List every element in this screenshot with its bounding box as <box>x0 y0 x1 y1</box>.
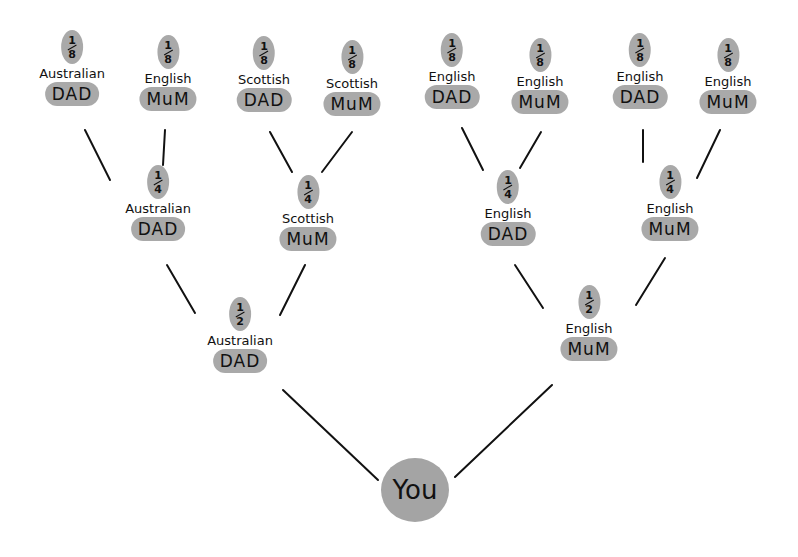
role-label: DAD <box>481 222 536 246</box>
fraction-denominator: 4 <box>504 189 512 200</box>
nationality-label: English <box>139 71 196 86</box>
fraction-numerator: 1 <box>724 43 732 54</box>
nationality-label: English <box>560 321 617 336</box>
role-label: DAD <box>131 217 186 241</box>
fraction-badge: 18 <box>341 40 363 74</box>
fraction-badge: 18 <box>717 38 739 72</box>
ancestor-node-g3-6: 18 English MuM <box>511 38 568 114</box>
role-label: DAD <box>45 82 100 106</box>
fraction-denominator: 8 <box>448 52 456 63</box>
role-label: DAD <box>613 85 668 109</box>
role-label: MuM <box>641 217 698 241</box>
nationality-label: English <box>511 74 568 89</box>
parent-node-mum: 12 English MuM <box>560 285 617 361</box>
ancestor-node-g3-5: 18 English DAD <box>425 33 480 109</box>
nationality-label: Scottish <box>237 72 292 87</box>
fraction-badge: 18 <box>253 36 275 70</box>
ancestor-node-g3-7: 18 English DAD <box>613 33 668 109</box>
fraction-numerator: 1 <box>154 170 162 181</box>
fraction-denominator: 8 <box>536 57 544 68</box>
nationality-label: English <box>699 74 756 89</box>
nationality-label: English <box>425 69 480 84</box>
fraction-numerator: 1 <box>666 170 674 181</box>
fraction-badge: 18 <box>441 33 463 67</box>
role-label: MuM <box>279 227 336 251</box>
fraction-numerator: 1 <box>68 35 76 46</box>
fraction-badge: 18 <box>529 38 551 72</box>
fraction-denominator: 8 <box>636 52 644 63</box>
fraction-numerator: 1 <box>164 40 172 51</box>
role-label: MuM <box>511 90 568 114</box>
fraction-numerator: 1 <box>348 45 356 56</box>
fraction-numerator: 1 <box>536 43 544 54</box>
you-node: You <box>381 458 449 522</box>
fraction-numerator: 1 <box>236 302 244 313</box>
fraction-denominator: 8 <box>68 49 76 60</box>
fraction-denominator: 4 <box>666 184 674 195</box>
fraction-denominator: 2 <box>585 304 593 315</box>
role-label: MuM <box>323 92 380 116</box>
ancestor-node-g3-4: 18 Scottish MuM <box>323 40 380 116</box>
fraction-numerator: 1 <box>304 180 312 191</box>
nationality-label: English <box>481 206 536 221</box>
fraction-denominator: 8 <box>724 57 732 68</box>
fraction-badge: 14 <box>659 165 681 199</box>
fraction-numerator: 1 <box>585 290 593 301</box>
fraction-badge: 18 <box>157 35 179 69</box>
fraction-badge: 14 <box>297 175 319 209</box>
fraction-badge: 12 <box>578 285 600 319</box>
nationality-label: Scottish <box>323 76 380 91</box>
fraction-badge: 18 <box>61 30 83 64</box>
role-label: DAD <box>425 85 480 109</box>
fraction-badge: 18 <box>629 33 651 67</box>
ancestor-node-g2-3: 14 English DAD <box>481 170 536 246</box>
nationality-label: Australian <box>39 66 105 81</box>
ancestor-node-g3-1: 18 Australian DAD <box>39 30 105 106</box>
fraction-denominator: 4 <box>304 194 312 205</box>
nationality-label: English <box>641 201 698 216</box>
ancestor-node-g2-1: 14 Australian DAD <box>125 165 191 241</box>
nationality-label: English <box>613 69 668 84</box>
fraction-badge: 14 <box>497 170 519 204</box>
nationality-label: Australian <box>125 201 191 216</box>
fraction-badge: 14 <box>147 165 169 199</box>
role-label: DAD <box>237 88 292 112</box>
fraction-badge: 12 <box>229 297 251 331</box>
fraction-denominator: 8 <box>260 55 268 66</box>
fraction-denominator: 8 <box>164 54 172 65</box>
nationality-label: Australian <box>207 333 273 348</box>
nationality-label: Scottish <box>279 211 336 226</box>
ancestor-node-g3-8: 18 English MuM <box>699 38 756 114</box>
ancestor-node-g3-2: 18 English MuM <box>139 35 196 111</box>
role-label: MuM <box>139 87 196 111</box>
role-label: MuM <box>699 90 756 114</box>
ancestor-node-g2-4: 14 English MuM <box>641 165 698 241</box>
ancestor-node-g2-2: 14 Scottish MuM <box>279 175 336 251</box>
fraction-denominator: 4 <box>154 184 162 195</box>
fraction-denominator: 2 <box>236 316 244 327</box>
role-label: MuM <box>560 337 617 361</box>
parent-node-dad: 12 Australian DAD <box>207 297 273 373</box>
fraction-denominator: 8 <box>348 59 356 70</box>
role-label: DAD <box>213 349 268 373</box>
ancestor-node-g3-3: 18 Scottish DAD <box>237 36 292 112</box>
